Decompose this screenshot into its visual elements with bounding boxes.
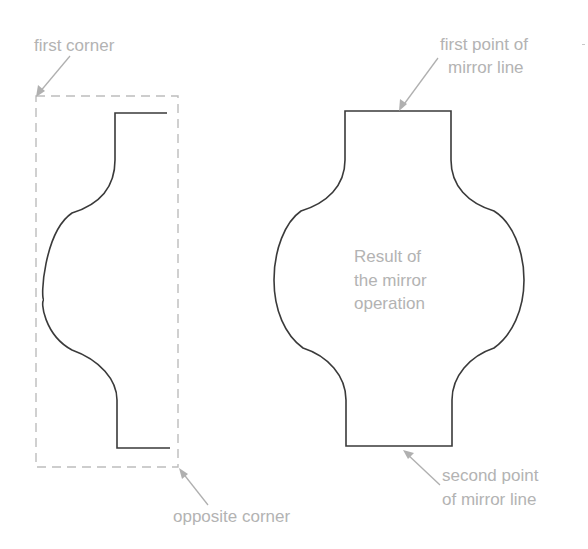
mirror-diagram: first corner opposite corner first point… xyxy=(0,0,588,549)
result-label-line3: operation xyxy=(354,294,425,313)
original-half-profile xyxy=(43,113,170,448)
first-point-label-line1: first point of xyxy=(440,35,528,54)
second-point-arrowhead xyxy=(403,450,414,459)
second-point-label-line2: of mirror line xyxy=(442,490,536,509)
opposite-corner-label: opposite corner xyxy=(173,507,291,526)
result-label-line1: Result of xyxy=(354,247,421,266)
first-corner-leader xyxy=(39,56,70,93)
second-point-label-line1: second point xyxy=(442,466,539,485)
stray-mark xyxy=(582,44,585,45)
first-corner-label: first corner xyxy=(34,36,115,55)
first-point-leader xyxy=(402,58,438,107)
opposite-corner-leader xyxy=(182,472,208,505)
first-point-label-line2: mirror line xyxy=(448,58,524,77)
second-point-leader xyxy=(406,453,440,485)
result-label-line2: the mirror xyxy=(354,271,427,290)
selection-window-box xyxy=(36,96,178,467)
